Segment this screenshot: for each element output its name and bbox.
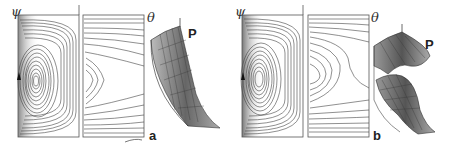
pressure-label-b: P [425,37,434,52]
pressure-label-a: P [188,26,197,41]
pressure-surface-a [151,18,220,128]
panel-b: ψ θ P b [230,0,460,147]
panel-label-b: b [373,128,381,143]
panel-a: ψ θ P a [0,0,230,147]
panel-a-graphics [0,0,230,147]
streamfunction-plot-a [17,5,79,137]
panel-b-graphics [230,0,460,147]
panel-label-a: a [149,128,156,143]
streamfunction-plot-b [241,5,303,137]
psi-label-b: ψ [235,4,245,19]
temperature-plot-b [308,15,369,137]
psi-label-a: ψ [11,4,21,19]
theta-label-a: θ [147,10,155,25]
theta-label-b: θ [371,10,379,25]
temperature-plot-a [83,15,144,142]
